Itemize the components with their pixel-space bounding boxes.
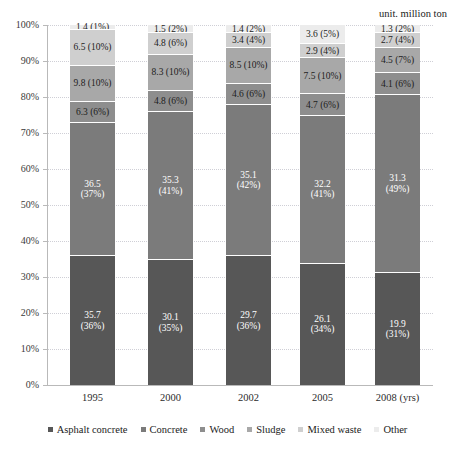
bar-segment-asphalt-concrete[interactable]: 35.7(36%) <box>70 255 115 385</box>
legend-swatch-icon <box>247 427 252 432</box>
stacked-bar-chart: unit. million ton 1.4 (1%)6.5 (10%)9.8 (… <box>0 0 455 451</box>
bar-segment-concrete[interactable]: 31.3(49%) <box>375 94 420 272</box>
bar-segment-asphalt-concrete[interactable]: 29.7(36%) <box>226 255 271 385</box>
bar-segment-sludge[interactable]: 4.5 (7%) <box>375 47 420 72</box>
legend-swatch-icon <box>374 427 379 432</box>
y-axis-tick <box>43 25 48 26</box>
y-axis-tick <box>43 385 48 386</box>
bar-segment-mixed-waste[interactable]: 2.7 (4%) <box>375 32 420 47</box>
x-axis-year: 2002 <box>238 392 259 403</box>
bar-segment-sludge[interactable]: 7.5 (10%) <box>300 57 345 93</box>
segment-value-label: 3.4 (4%) <box>214 35 284 45</box>
legend-item-mixed-waste[interactable]: Mixed waste <box>298 424 361 435</box>
bar-segment-other[interactable]: 1.5 (2%) <box>148 25 193 32</box>
y-axis-tick-label: 0% <box>0 379 39 390</box>
segment-value-label: 31.3(49%) <box>386 173 410 194</box>
y-axis-tick <box>43 169 48 170</box>
plot-area: 1.4 (1%)6.5 (10%)9.8 (10%)6.3 (6%)36.5(3… <box>47 25 433 385</box>
bar-segment-wood[interactable]: 4.7 (6%) <box>300 93 345 115</box>
bar-segment-sludge[interactable]: 8.3 (10%) <box>148 54 193 90</box>
legend-swatch-icon <box>200 427 205 432</box>
legend: Asphalt concreteConcreteWoodSludgeMixed … <box>0 424 455 435</box>
legend-item-other[interactable]: Other <box>374 424 407 435</box>
y-axis-tick <box>43 277 48 278</box>
segment-value-label: 4.1 (6%) <box>381 79 414 89</box>
legend-label: Concrete <box>150 424 188 435</box>
bar-segment-other[interactable]: 3.6 (5%) <box>300 25 345 43</box>
y-axis-tick <box>43 349 48 350</box>
bar-segment-other[interactable]: 1.3 (2%) <box>375 25 420 32</box>
x-axis-label-2000: 2000 <box>126 392 216 403</box>
segment-value-label: 4.6 (6%) <box>232 89 265 99</box>
segment-value-label: 35.1(42%) <box>237 170 261 191</box>
bar-segment-concrete[interactable]: 36.5(37%) <box>70 122 115 255</box>
y-axis-tick-label: 70% <box>0 127 39 138</box>
segment-value-label: 7.5 (10%) <box>304 71 342 81</box>
segment-value-label: 35.3(41%) <box>159 175 183 196</box>
y-axis-tick-label: 80% <box>0 91 39 102</box>
bar-segment-mixed-waste[interactable]: 3.4 (4%) <box>226 32 271 46</box>
bar-segment-asphalt-concrete[interactable]: 30.1(35%) <box>148 259 193 385</box>
legend-swatch-icon <box>298 427 303 432</box>
y-axis-tick-label: 30% <box>0 271 39 282</box>
y-axis-tick <box>43 97 48 98</box>
y-axis-tick-label: 60% <box>0 163 39 174</box>
bar-segment-wood[interactable]: 4.8 (6%) <box>148 90 193 112</box>
segment-value-label: 6.5 (10%) <box>74 42 112 52</box>
segment-value-label: 8.3 (10%) <box>152 67 190 77</box>
bar-segment-sludge[interactable]: 8.5 (10%) <box>226 47 271 83</box>
legend-label: Mixed waste <box>307 424 361 435</box>
unit-note: unit. million ton <box>379 8 447 19</box>
segment-value-label: 30.1(35%) <box>159 312 183 333</box>
segment-value-label: 32.2(41%) <box>311 179 335 200</box>
bar-segment-wood[interactable]: 4.1 (6%) <box>375 72 420 94</box>
legend-item-concrete[interactable]: Concrete <box>141 424 188 435</box>
bar-segment-concrete[interactable]: 32.2(41%) <box>300 115 345 263</box>
segment-value-label: 4.8 (6%) <box>154 96 187 106</box>
bar-2000[interactable]: 1.5 (2%)4.8 (6%)8.3 (10%)4.8 (6%)35.3(41… <box>148 25 193 385</box>
y-axis-tick <box>43 241 48 242</box>
bar-2008[interactable]: 1.3 (2%)2.7 (4%)4.5 (7%)4.1 (6%)31.3(49%… <box>375 25 420 385</box>
y-axis-tick-label: 100% <box>0 19 39 30</box>
legend-label: Other <box>383 424 407 435</box>
legend-label: Wood <box>209 424 234 435</box>
bar-2002[interactable]: 1.4 (2%)3.4 (4%)8.5 (10%)4.6 (6%)35.1(42… <box>226 25 271 385</box>
segment-value-label: 2.7 (4%) <box>363 35 433 45</box>
segment-value-label: 3.6 (5%) <box>306 29 339 39</box>
segment-value-label: 4.8 (6%) <box>154 38 187 48</box>
x-axis-year: 1995 <box>82 392 103 403</box>
y-axis-tick <box>43 61 48 62</box>
legend-item-asphalt-concrete[interactable]: Asphalt concrete <box>48 424 128 435</box>
bar-segment-concrete[interactable]: 35.3(41%) <box>148 111 193 259</box>
segment-value-label: 36.5(37%) <box>81 179 105 200</box>
bar-segment-concrete[interactable]: 35.1(42%) <box>226 104 271 255</box>
y-axis-tick-label: 90% <box>0 55 39 66</box>
legend-item-wood[interactable]: Wood <box>200 424 234 435</box>
bar-segment-mixed-waste[interactable]: 6.5 (10%) <box>70 29 115 65</box>
segment-value-label: 29.7(36%) <box>237 310 261 331</box>
x-axis-line <box>47 385 433 386</box>
bar-segment-wood[interactable]: 4.6 (6%) <box>226 83 271 105</box>
segment-value-label: 4.7 (6%) <box>306 100 339 110</box>
legend-swatch-icon <box>48 427 53 432</box>
x-axis-year: 2000 <box>160 392 181 403</box>
bar-2005[interactable]: 3.6 (5%)2.9 (4%)7.5 (10%)4.7 (6%)32.2(41… <box>300 25 345 385</box>
bar-segment-mixed-waste[interactable]: 4.8 (6%) <box>148 32 193 54</box>
bar-segment-asphalt-concrete[interactable]: 19.9(31%) <box>375 272 420 385</box>
bar-1995[interactable]: 1.4 (1%)6.5 (10%)9.8 (10%)6.3 (6%)36.5(3… <box>70 25 115 385</box>
bar-segment-mixed-waste[interactable]: 2.9 (4%) <box>300 43 345 57</box>
legend-item-sludge[interactable]: Sludge <box>247 424 285 435</box>
x-axis-label-2008: 2008 (yrs) <box>353 392 443 403</box>
bar-segment-other[interactable]: 1.4 (2%) <box>226 25 271 32</box>
segment-value-label: 4.5 (7%) <box>381 55 414 65</box>
bar-segment-wood[interactable]: 6.3 (6%) <box>70 101 115 123</box>
bar-segment-asphalt-concrete[interactable]: 26.1(34%) <box>300 263 345 385</box>
y-axis-tick <box>43 133 48 134</box>
segment-value-label: 6.3 (6%) <box>76 107 109 117</box>
y-axis-tick <box>43 313 48 314</box>
y-axis-tick-label: 50% <box>0 199 39 210</box>
bar-segment-sludge[interactable]: 9.8 (10%) <box>70 65 115 101</box>
y-axis-tick-label: 20% <box>0 307 39 318</box>
segment-value-label: 8.5 (10%) <box>230 60 268 70</box>
segment-value-label: 35.7(36%) <box>81 310 105 331</box>
